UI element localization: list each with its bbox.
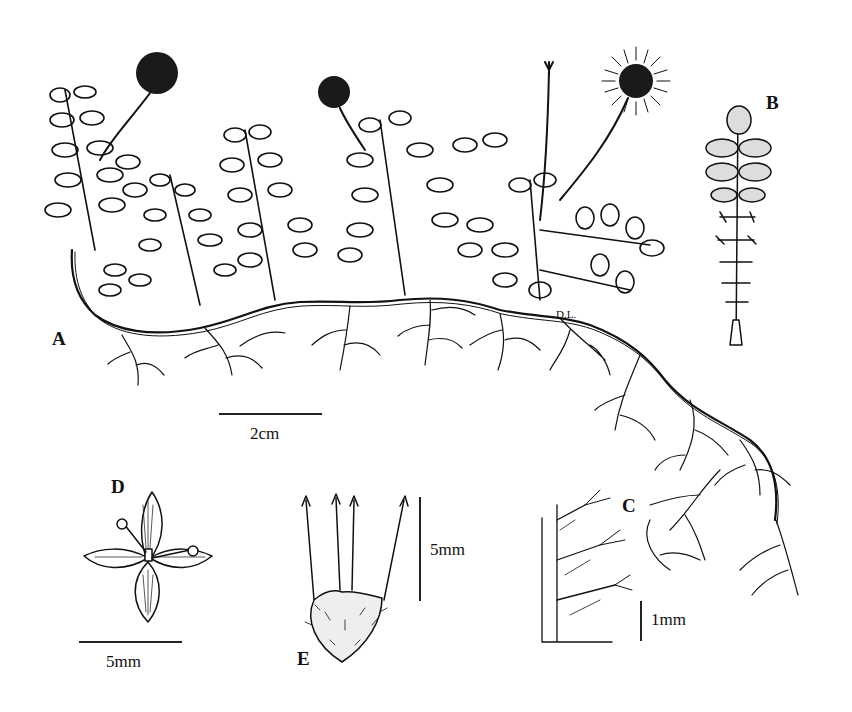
artist-signature: D.L.	[556, 308, 576, 320]
scale-text-c: 1mm	[651, 610, 686, 630]
panel-label-e: E	[297, 648, 310, 670]
scale-bar-c	[640, 601, 642, 641]
scale-text-a: 2cm	[250, 424, 279, 444]
scale-text-d: 5mm	[106, 652, 141, 672]
panel-c-leaflet-margin	[542, 490, 632, 642]
panel-label-c: C	[622, 495, 636, 517]
panel-label-b: B	[766, 92, 779, 114]
rhizome	[72, 250, 779, 524]
panel-e-fruit	[302, 494, 408, 662]
panel-label-a: A	[52, 328, 66, 350]
panel-b-leaf	[706, 106, 771, 345]
scale-bar-e	[419, 497, 421, 601]
botanical-plate-drawing	[0, 0, 852, 712]
leaf-clusters	[45, 86, 664, 305]
flower-heads	[136, 47, 670, 115]
panel-d-flower	[84, 492, 212, 622]
scapes	[100, 62, 628, 220]
panel-label-d: D	[111, 476, 125, 498]
scale-text-e: 5mm	[430, 540, 465, 560]
scale-bar-a	[219, 413, 322, 415]
scale-bar-d	[79, 641, 182, 643]
